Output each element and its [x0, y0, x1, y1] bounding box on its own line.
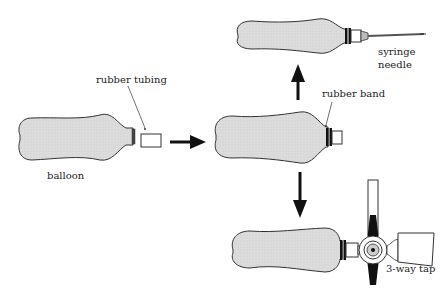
arrow-down-icon — [293, 172, 307, 218]
arrow-up-icon — [291, 64, 305, 100]
label-syringe-needle-line1: syringe — [378, 46, 416, 58]
label-three-way-tap: 3-way tap — [386, 263, 435, 275]
rubber-tubing-piece — [141, 134, 161, 147]
label-balloon: balloon — [47, 170, 84, 182]
arrow-right-icon — [170, 135, 206, 149]
rubber-tubing-leader — [128, 86, 145, 128]
balloon-plain — [19, 114, 135, 160]
balloon-with-tubing — [215, 112, 342, 163]
label-rubber-band: rubber band — [322, 88, 385, 100]
label-rubber-tubing: rubber tubing — [96, 74, 167, 86]
label-syringe-needle-line2: needle — [378, 59, 412, 71]
rubber-band-leader — [326, 102, 332, 125]
balloon-with-tap — [232, 228, 364, 272]
balloon-assembly-diagram — [0, 0, 447, 290]
